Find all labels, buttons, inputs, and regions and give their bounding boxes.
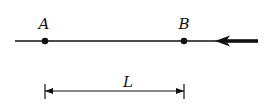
point-b-label: B [177,15,189,33]
diagram-canvas: A B L [0,0,274,112]
point-a-label: A [37,15,50,33]
force-arrow-icon [215,36,258,47]
point-a-dot [42,38,49,45]
dimension-label: L [122,73,133,91]
point-b-dot [181,38,188,45]
